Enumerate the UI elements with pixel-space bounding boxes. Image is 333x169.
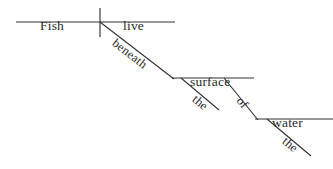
diagram-word-verb: live (123, 19, 144, 33)
sentence-diagram-canvas: Fishlivebeneathsurfacetheofwaterthe (0, 0, 333, 169)
diagram-word-object-2: water (272, 116, 303, 130)
diagram-word-subject: Fish (40, 19, 64, 33)
diagram-word-object-1: surface (190, 75, 230, 89)
